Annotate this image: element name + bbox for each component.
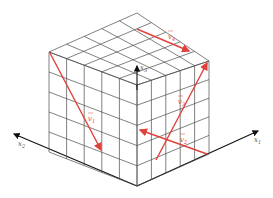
cube-diagram: x3 x2 x1 v1 v2 v3 v4 [0,0,273,198]
x2-axis [14,134,137,186]
cube-grid [49,13,209,186]
v1-label: v1 [88,115,95,124]
x2-axis-label: x2 [18,140,25,149]
v4-label: v4 [168,33,175,42]
v2-label: v2 [180,136,187,145]
vector-v4 [137,29,189,51]
v3-label: v3 [178,98,185,107]
x1-axis-label: x1 [254,136,261,145]
x3-axis-label: x3 [140,64,147,73]
